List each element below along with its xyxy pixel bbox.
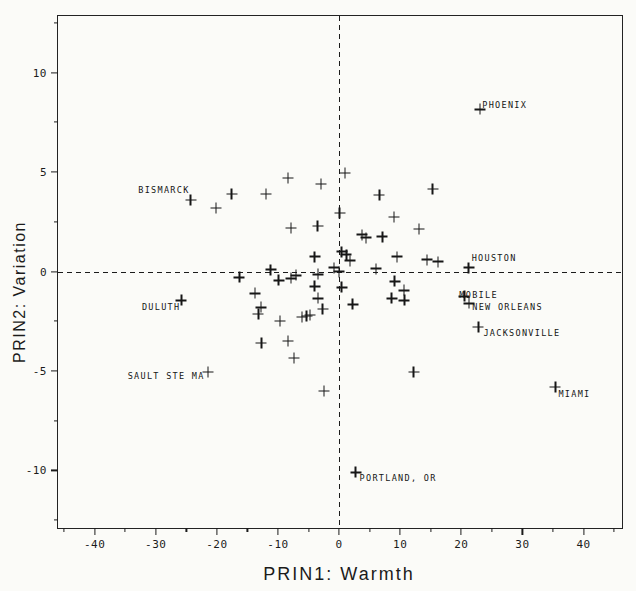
city-label: NEW ORLEANS: [472, 303, 543, 312]
data-point: [334, 266, 345, 277]
x-tick-label: 10: [393, 538, 407, 551]
scatter-figure: -40-30-20-10010203040-10-50510BISMARCKHO…: [0, 0, 636, 591]
x-major-tick: [94, 528, 95, 535]
city-label: PHOENIX: [482, 101, 527, 110]
data-point: [317, 304, 328, 315]
data-point: [265, 264, 276, 275]
data-point: [309, 251, 320, 262]
data-point: [304, 310, 315, 321]
x-minor-tick: [369, 528, 370, 532]
data-point: [377, 231, 388, 242]
plot-area: -40-30-20-10010203040-10-50510BISMARCKHO…: [57, 15, 623, 529]
data-point: [315, 178, 326, 189]
y-minor-tick: [54, 22, 58, 23]
data-point: [386, 293, 397, 304]
data-point: [336, 282, 347, 293]
data-point: [309, 281, 320, 292]
x-minor-tick: [125, 528, 126, 532]
data-point: [274, 316, 285, 327]
y-major-tick: [51, 370, 58, 371]
x-tick-label: -30: [145, 538, 166, 551]
y-minor-tick: [54, 221, 58, 222]
data-point: [422, 254, 433, 265]
x-minor-tick: [491, 528, 492, 532]
x-tick-label: -20: [206, 538, 227, 551]
data-point: [370, 263, 381, 274]
data-point: [433, 256, 444, 267]
data-point: [360, 232, 371, 243]
city-label: MIAMI: [558, 390, 590, 399]
city-label: BISMARCK: [138, 186, 189, 195]
city-label: PORTLAND, OR: [360, 474, 437, 483]
data-point: [256, 338, 267, 349]
data-point: [282, 336, 293, 347]
data-point-houston: [463, 262, 474, 273]
data-point: [414, 223, 425, 234]
y-tick-label: 0: [40, 265, 47, 278]
x-major-tick: [277, 528, 278, 535]
y-minor-tick: [54, 122, 58, 123]
data-point: [234, 272, 245, 283]
data-point-jacksonville: [473, 322, 484, 333]
data-point: [312, 220, 323, 231]
data-point: [392, 251, 403, 262]
data-point: [408, 366, 419, 377]
data-point: [211, 202, 222, 213]
x-tick-label: -40: [84, 538, 105, 551]
y-major-tick: [51, 470, 58, 471]
y-major-tick: [51, 171, 58, 172]
data-point: [427, 183, 438, 194]
y-major-tick: [51, 271, 58, 272]
y-minor-tick: [54, 520, 58, 521]
x-tick-label: 0: [336, 538, 343, 551]
data-point: [288, 353, 299, 364]
x-major-tick: [400, 528, 401, 535]
x-major-tick: [583, 528, 584, 535]
data-point: [313, 293, 324, 304]
data-point: [389, 211, 400, 222]
data-point: [345, 255, 356, 266]
x-minor-tick: [430, 528, 431, 532]
data-point: [260, 188, 271, 199]
data-point-bismarck: [185, 194, 196, 205]
data-point: [347, 299, 358, 310]
x-tick-label: 20: [454, 538, 468, 551]
y-tick-label: 10: [33, 66, 47, 79]
x-major-tick: [522, 528, 523, 535]
y-tick-label: 5: [40, 166, 47, 179]
data-point: [249, 288, 260, 299]
x-axis-title: PRIN1: Warmth: [263, 564, 414, 585]
data-point: [313, 269, 324, 280]
y-axis-title: PRIN2: Variation: [11, 221, 29, 363]
data-point: [318, 385, 329, 396]
x-minor-tick: [613, 528, 614, 532]
y-tick-label: -10: [26, 464, 47, 477]
city-label: DULUTH: [142, 303, 181, 312]
data-point: [374, 189, 385, 200]
data-point: [399, 295, 410, 306]
x-tick-label: 30: [515, 538, 529, 551]
x-major-tick: [461, 528, 462, 535]
x-minor-tick: [308, 528, 309, 532]
x-major-tick: [338, 528, 339, 535]
data-point: [273, 275, 284, 286]
data-point: [291, 270, 302, 281]
city-label: SAULT STE MA: [128, 372, 205, 381]
data-point: [253, 309, 264, 320]
data-point: [334, 207, 345, 218]
x-minor-tick: [64, 528, 65, 532]
x-minor-tick: [247, 528, 248, 532]
data-point: [340, 168, 351, 179]
y-minor-tick: [54, 321, 58, 322]
data-point: [285, 222, 296, 233]
x-major-tick: [155, 528, 156, 535]
data-point: [282, 172, 293, 183]
y-tick-label: -5: [33, 364, 47, 377]
data-point: [226, 188, 237, 199]
x-major-tick: [216, 528, 217, 535]
x-tick-label: -10: [267, 538, 288, 551]
city-label: JACKSONVILLE: [483, 329, 560, 338]
city-label: HOUSTON: [472, 254, 517, 263]
x-minor-tick: [552, 528, 553, 532]
y-minor-tick: [54, 420, 58, 421]
